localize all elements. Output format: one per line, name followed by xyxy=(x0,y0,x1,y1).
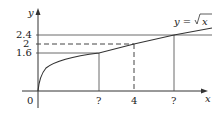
y-tick-1.6: 1.6 xyxy=(16,47,32,58)
x-tick-right-unknown: ? xyxy=(171,95,176,106)
function-label-radicand: x xyxy=(202,16,208,27)
x-tick-4: 4 xyxy=(131,95,137,106)
y-axis-arrow-icon xyxy=(36,8,41,15)
y-axis-label: y xyxy=(27,7,34,18)
sqrt-graph: 2.4 2 1.6 0 ? 4 ? y x y = x xyxy=(0,0,218,113)
x-tick-left-unknown: ? xyxy=(96,95,101,106)
x-axis-label: x xyxy=(205,93,211,104)
origin-label: 0 xyxy=(27,95,33,106)
function-label: y = xyxy=(173,16,191,27)
sqrt-curve xyxy=(38,28,212,91)
